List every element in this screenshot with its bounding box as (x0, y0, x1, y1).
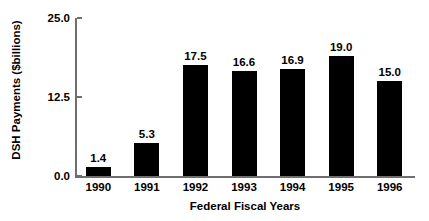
y-axis-tick-label-wrap: 0.0 (28, 170, 70, 182)
bar-value-label: 17.5 (170, 50, 220, 62)
x-axis-tick-label: 1994 (268, 181, 318, 194)
bar (134, 143, 159, 176)
x-axis-line (75, 176, 415, 178)
x-axis-tick-label: 1991 (122, 181, 172, 194)
bar-value-label: 19.0 (316, 41, 366, 53)
y-axis-tick-label: 12.5 (30, 91, 70, 103)
x-axis-tick-label: 1992 (170, 181, 220, 194)
x-axis-tick-label: 1995 (316, 181, 366, 194)
bar (183, 65, 208, 176)
bar (232, 71, 257, 176)
bar (280, 69, 305, 176)
bar (377, 81, 402, 176)
bar-value-label: 5.3 (122, 128, 172, 140)
bar (329, 56, 354, 176)
bar-value-label: 16.6 (219, 56, 269, 68)
y-axis-tick-label-wrap: 25.0 (28, 12, 70, 24)
y-axis-tick-label: 0.0 (30, 170, 70, 182)
bar-value-label: 1.4 (73, 152, 123, 164)
x-axis-tick-label: 1996 (365, 181, 415, 194)
y-axis-title: DSH Payments ($billions) (8, 2, 24, 178)
bar (86, 167, 111, 176)
bar-value-label: 16.9 (268, 54, 318, 66)
x-axis-title: Federal Fiscal Years (75, 199, 415, 213)
x-axis-tick-label: 1990 (73, 181, 123, 194)
y-axis-tick-label: 25.0 (30, 12, 70, 24)
y-axis-tick-label-wrap: 12.5 (28, 91, 70, 103)
bar-chart: DSH Payments ($billions) 0.012.525.0 1.4… (0, 0, 429, 221)
x-axis-tick-label: 1993 (219, 181, 269, 194)
bar-value-label: 15.0 (365, 66, 415, 78)
